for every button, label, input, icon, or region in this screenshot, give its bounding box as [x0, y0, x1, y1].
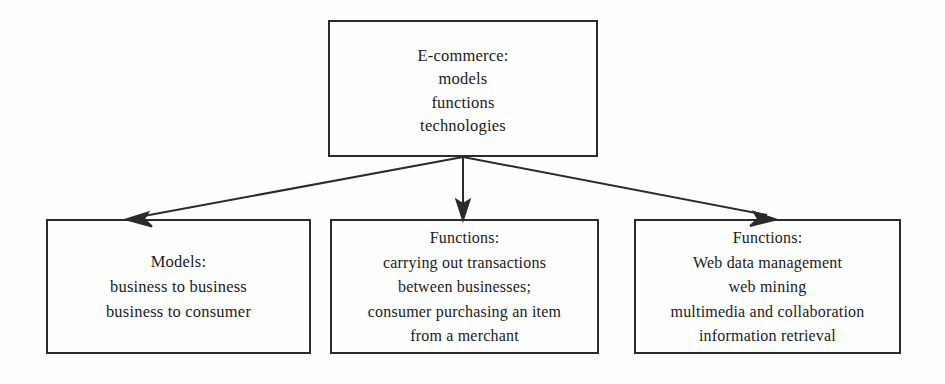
node-root-line-2: models: [439, 67, 488, 91]
node-root-line-1: E-commerce:: [417, 44, 508, 68]
node-functions-transactions-line-5: from a merchant: [410, 324, 519, 349]
node-functions-transactions-line-3: between businesses;: [398, 275, 531, 300]
node-functions-web-line-5: information retrieval: [699, 324, 836, 349]
node-functions-web-line-2: Web data management: [693, 251, 842, 276]
node-models-line-1: Models:: [151, 249, 206, 274]
node-functions-web: Functions: Web data management web minin…: [634, 219, 901, 354]
connector-root-to-functions-web: [463, 157, 776, 226]
node-root-line-3: functions: [431, 91, 494, 115]
node-functions-web-line-4: multimedia and collaboration: [671, 300, 865, 325]
node-models-line-2: business to business: [110, 274, 247, 299]
node-functions-transactions-line-1: Functions:: [430, 226, 500, 251]
node-models: Models: business to business business to…: [46, 219, 311, 354]
connector-root-to-functions-transactions: [457, 157, 470, 220]
node-root-line-4: technologies: [420, 114, 506, 138]
node-functions-web-line-3: web mining: [729, 275, 807, 300]
node-models-line-3: business to consumer: [106, 299, 251, 324]
node-functions-transactions: Functions: carrying out transactions bet…: [330, 219, 599, 354]
diagram-canvas: E-commerce: models functions technologie…: [0, 0, 945, 384]
node-functions-transactions-line-4: consumer purchasing an item: [368, 300, 561, 325]
node-functions-web-line-1: Functions:: [733, 226, 803, 251]
node-root: E-commerce: models functions technologie…: [328, 20, 598, 157]
node-functions-transactions-line-2: carrying out transactions: [383, 251, 546, 276]
connector-root-to-models: [126, 157, 463, 227]
